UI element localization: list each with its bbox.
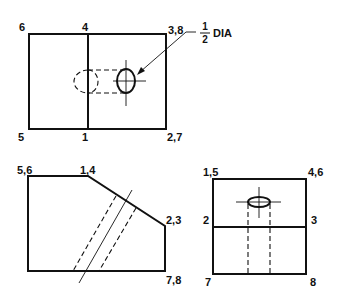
label-7-8: 7,8: [166, 274, 181, 286]
label-3: 3: [311, 214, 317, 226]
leader-line: [140, 32, 186, 72]
side-view: 1,5 4,6 2 3 7 8: [203, 166, 323, 288]
label-1-4: 1,4: [80, 164, 96, 176]
orthographic-drawing: 1 2 DIA 6 4 3,8 5 1 2,7 5,6 1,4 2,3 7,8 …: [0, 0, 341, 304]
callout-numerator: 1: [202, 21, 208, 32]
front-hidden-line-left: [73, 196, 116, 271]
label-1-5: 1,5: [203, 166, 218, 178]
label-6: 6: [19, 21, 25, 33]
label-2: 2: [203, 214, 209, 226]
front-hole-centerline: [79, 190, 132, 283]
label-3-8: 3,8: [168, 24, 183, 36]
front-view: 5,6 1,4 2,3 7,8: [17, 164, 181, 286]
top-view: 1 2 DIA 6 4 3,8 5 1 2,7: [18, 21, 232, 143]
label-4: 4: [82, 21, 89, 33]
label-4-6: 4,6: [308, 166, 323, 178]
callout-denominator: 2: [202, 34, 208, 45]
label-5: 5: [18, 131, 24, 143]
front-view-outline: [28, 176, 165, 271]
hidden-hole-arc: [74, 70, 88, 93]
label-7: 7: [205, 276, 211, 288]
label-5-6: 5,6: [17, 164, 32, 176]
label-2-7: 2,7: [167, 131, 182, 143]
label-1: 1: [82, 131, 88, 143]
callout-unit: DIA: [213, 27, 232, 39]
label-2-3: 2,3: [166, 214, 181, 226]
front-hidden-line-right: [99, 208, 136, 271]
hidden-hole-arc-right: [88, 70, 98, 93]
label-8: 8: [310, 276, 316, 288]
